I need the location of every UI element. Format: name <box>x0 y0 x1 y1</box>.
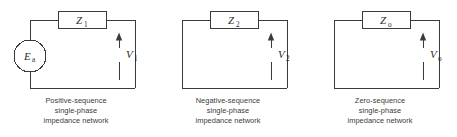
caption-positive-sequence: Positive-sequence single-phase impedance… <box>0 96 152 127</box>
impedance-label-subscript: 2 <box>236 21 240 29</box>
impedance-label-subscript: 1 <box>84 21 88 29</box>
caption-zero-sequence: Zero-sequence single-phase impedance net… <box>304 96 456 127</box>
caption-line-1: Zero-sequence <box>304 96 456 106</box>
network-positive-sequence: E a Z 1 V 1 Positive-sequence single-pha… <box>0 0 152 137</box>
voltage-label-subscript: o <box>438 55 442 63</box>
sequence-networks-figure: E a Z 1 V 1 Positive-sequence single-pha… <box>0 0 457 137</box>
impedance-label: Z <box>76 14 83 26</box>
caption-line-1: Negative-sequence <box>152 96 304 106</box>
voltage-arrow-head <box>268 33 274 41</box>
impedance-label: Z <box>380 14 387 26</box>
impedance-label-subscript: o <box>388 21 392 29</box>
voltage-label: V <box>430 48 438 60</box>
caption-line-2: single-phase <box>304 106 456 116</box>
caption-line-3: impedance network <box>304 116 456 126</box>
caption-line-2: single-phase <box>152 106 304 116</box>
circuit-diagram-zero: Z o V o <box>304 0 456 96</box>
impedance-label: Z <box>228 14 235 26</box>
voltage-arrow-head <box>420 33 426 41</box>
voltage-label-subscript: 1 <box>134 55 138 63</box>
caption-line-1: Positive-sequence <box>0 96 152 106</box>
caption-line-2: single-phase <box>0 106 152 116</box>
caption-line-3: impedance network <box>0 116 152 126</box>
voltage-arrow-head <box>116 33 122 41</box>
voltage-label: V <box>278 48 286 60</box>
source-label: E <box>23 50 31 62</box>
caption-line-3: impedance network <box>152 116 304 126</box>
voltage-label-subscript: 2 <box>286 55 290 63</box>
voltage-label: V <box>126 48 134 60</box>
source-label-subscript: a <box>32 56 36 64</box>
circuit-diagram-positive: E a Z 1 V 1 <box>0 0 152 96</box>
network-zero-sequence: Z o V o Zero-sequence single-phase imped… <box>304 0 456 137</box>
network-negative-sequence: Z 2 V 2 Negative-sequence single-phase i… <box>152 0 304 137</box>
circuit-diagram-negative: Z 2 V 2 <box>152 0 304 96</box>
caption-negative-sequence: Negative-sequence single-phase impedance… <box>152 96 304 127</box>
